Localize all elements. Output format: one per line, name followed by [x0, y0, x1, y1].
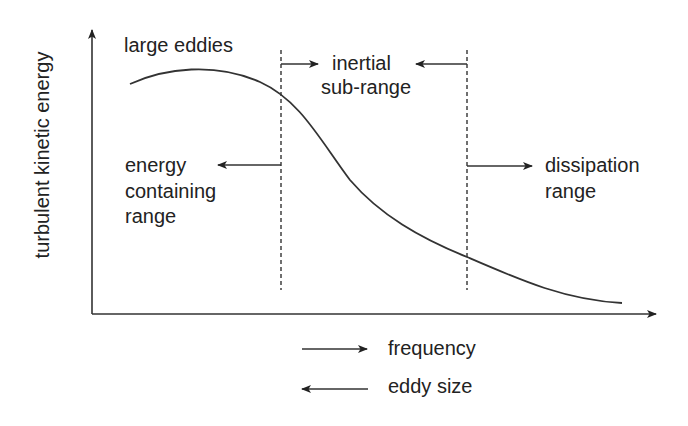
energy-label-line2: containing	[125, 180, 216, 203]
dissipation-label-line1: dissipation	[545, 154, 640, 177]
inertial-label-line1: inertial	[332, 52, 391, 75]
y-axis-label: turbulent kinetic energy	[31, 52, 54, 259]
legend-frequency-label: frequency	[388, 337, 476, 360]
legend-eddy-size-label: eddy size	[388, 375, 473, 398]
large-eddies-label: large eddies	[124, 34, 233, 57]
inertial-label-line2: sub-range	[321, 76, 411, 99]
energy-label-line3: range	[125, 205, 176, 228]
energy-label-line1: energy	[125, 154, 186, 177]
dissipation-label-line2: range	[545, 180, 596, 203]
